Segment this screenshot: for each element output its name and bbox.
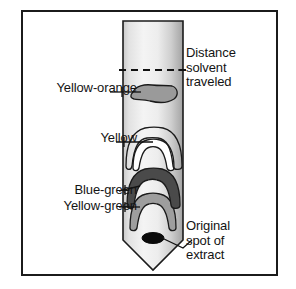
label-yellow-orange: Yellow-orange <box>33 81 137 96</box>
original-spot <box>142 233 164 244</box>
yellow-orange-band <box>131 85 177 103</box>
label-yellow-green: Yellow-green <box>27 199 137 214</box>
chromatography-figure: Distance solvent traveled Yellow-orange … <box>0 0 296 289</box>
label-yellow: Yellow <box>71 131 137 146</box>
chromatography-diagram <box>0 0 296 289</box>
label-distance-solvent-traveled: Distance solvent traveled <box>186 46 236 90</box>
label-blue-green: Blue-green <box>39 183 137 198</box>
label-original-spot-of-extract: Original spot of extract <box>186 219 230 263</box>
